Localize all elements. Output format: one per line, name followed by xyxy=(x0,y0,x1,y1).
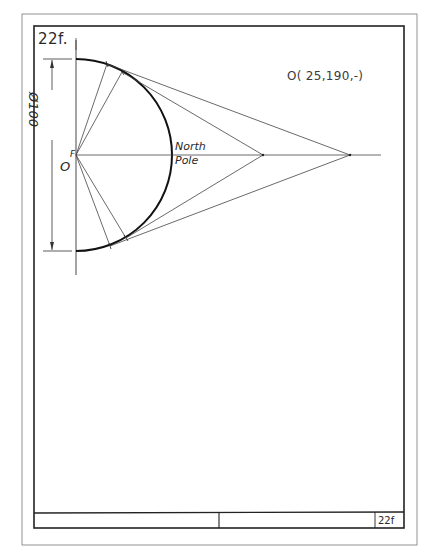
focus-ray-4 xyxy=(76,155,126,238)
drawing-sheet: 22f. O( 25,190,-) Ø100 North Pole O F 22… xyxy=(0,0,429,553)
focus-point-label: F xyxy=(70,150,75,159)
outer-frame xyxy=(22,14,417,545)
inner-border xyxy=(34,26,404,528)
origin-point-label: O xyxy=(60,160,70,173)
apex-point-inner xyxy=(262,154,264,156)
focus-ray-3 xyxy=(76,155,110,246)
title-block-top xyxy=(34,512,404,513)
origin-coordinates-label: O( 25,190,-) xyxy=(287,70,363,82)
title-block-sheet-number: 22f xyxy=(378,516,394,526)
dimension-arrow-up xyxy=(50,60,54,68)
apex-point-outer xyxy=(349,154,351,156)
north-pole-label-line1: North xyxy=(175,141,206,152)
tangent-line-outer-bottom xyxy=(110,155,350,246)
focus-ray-2 xyxy=(76,72,122,155)
dimension-arrow-down xyxy=(50,242,54,250)
focus-ray-1 xyxy=(76,64,107,155)
north-pole-label-line2: Pole xyxy=(175,155,198,166)
technical-drawing xyxy=(0,0,429,553)
tangent-line-inner-bottom xyxy=(126,155,263,238)
diameter-dimension-label: Ø100 xyxy=(27,92,40,127)
figure-id-label: 22f. xyxy=(38,32,68,47)
